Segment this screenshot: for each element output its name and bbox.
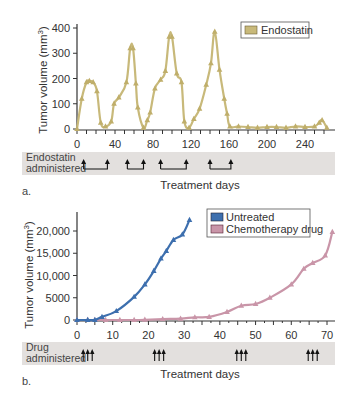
y-tick-label: 200 — [52, 73, 70, 85]
endostatin-legend-label: Endostatin — [261, 24, 313, 36]
data-point-marker — [179, 79, 185, 84]
data-point-marker — [224, 111, 230, 116]
chemotherapy-line — [77, 232, 332, 320]
data-point-marker — [217, 66, 223, 71]
y-tick-label: 0 — [64, 314, 70, 326]
data-point-marker — [133, 80, 139, 85]
x-tick-label: 120 — [182, 138, 200, 150]
x-tick-label: 60 — [285, 329, 297, 341]
untreated-line — [77, 220, 190, 320]
y-tick-label: 300 — [52, 47, 70, 59]
data-point-marker — [108, 118, 114, 123]
data-point-marker — [203, 82, 209, 87]
y-tick-label: 400 — [52, 22, 70, 34]
panel-b-x-axis-title: Treatment days — [160, 368, 240, 380]
untreated-markers — [74, 217, 192, 322]
data-point-marker — [187, 217, 193, 222]
panel-a-y-ticks: 0100200300400 — [52, 22, 77, 135]
x-tick-label: 200 — [258, 138, 276, 150]
untreated-legend-swatch — [211, 213, 223, 221]
panel-b-label: b. — [22, 375, 31, 387]
x-tick-label: 70 — [321, 329, 333, 341]
data-point-marker — [74, 126, 80, 131]
x-tick-label: 0 — [74, 138, 80, 150]
x-tick-label: 40 — [109, 138, 121, 150]
data-point-marker — [79, 96, 85, 101]
data-point-marker — [212, 29, 218, 34]
panel-a-legend: Endostatin — [241, 22, 313, 38]
x-tick-label: 20 — [142, 329, 154, 341]
untreated-legend-label: Untreated — [226, 211, 274, 223]
data-point-marker — [174, 70, 180, 75]
data-point-marker — [182, 118, 188, 123]
x-tick-label: 10 — [107, 329, 119, 341]
figure: Tumor volume (mm3) 0100200300400 0408012… — [0, 0, 352, 402]
x-tick-label: 240 — [296, 138, 314, 150]
panel-a-band-label-line2: administered — [26, 162, 86, 174]
x-tick-label: 80 — [147, 138, 159, 150]
x-tick-label: 30 — [178, 329, 190, 341]
panel-b-chart: Tumor volume (mm3) 0500010,00015,00020,0… — [22, 209, 335, 387]
data-point-marker — [208, 60, 214, 65]
y-tick-label: 5000 — [46, 292, 70, 304]
data-point-marker — [94, 88, 100, 93]
data-point-marker — [147, 109, 153, 114]
panel-b-y-ticks: 0500010,00015,00020,000 — [36, 225, 77, 326]
y-tick-label: 15,000 — [36, 247, 70, 259]
x-tick-label: 160 — [220, 138, 238, 150]
data-point-marker — [221, 96, 227, 101]
data-point-marker — [98, 119, 104, 124]
y-tick-label: 0 — [64, 123, 70, 135]
panel-a-x-ticks: 04080120160200240 — [74, 130, 324, 150]
data-point-marker — [330, 229, 336, 234]
x-tick-label: 40 — [214, 329, 226, 341]
panel-b-legend: Untreated Chemotherapy drug — [207, 209, 323, 237]
panel-b-y-axis-title: Tumor volume (mm3) — [22, 221, 35, 329]
panel-a-label: a. — [22, 185, 31, 197]
panel-b-x-ticks: 010203040506070 — [74, 321, 333, 341]
chemotherapy-legend-label: Chemotherapy drug — [226, 223, 323, 235]
data-point-marker — [163, 68, 169, 73]
x-tick-label: 50 — [249, 329, 261, 341]
y-tick-label: 20,000 — [36, 225, 70, 237]
x-tick-label: 0 — [74, 329, 80, 341]
panel-b-band-label-line2: administered — [26, 352, 86, 364]
y-tick-label: 100 — [52, 98, 70, 110]
chemotherapy-legend-swatch — [211, 225, 223, 233]
data-point-marker — [124, 79, 130, 84]
panel-a-x-axis-title: Treatment days — [160, 179, 240, 191]
data-point-marker — [135, 104, 141, 109]
y-tick-label: 10,000 — [36, 270, 70, 282]
endostatin-line — [77, 32, 327, 129]
endostatin-legend-swatch — [245, 26, 257, 34]
panel-a-y-axis-title: Tumor volume (mm3) — [36, 26, 49, 134]
chemotherapy-markers — [74, 229, 335, 322]
panel-a-chart: Tumor volume (mm3) 0100200300400 0408012… — [22, 22, 335, 197]
